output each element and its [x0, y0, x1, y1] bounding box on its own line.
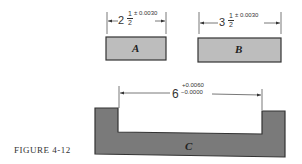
part-b-label: B — [235, 43, 242, 55]
dimension-a-fraction: 1 2 — [127, 11, 133, 26]
figure-caption: FIGURE 4-12 — [14, 145, 71, 155]
dimension-c-upper-tolerance: +0.0060 — [182, 82, 204, 88]
dimension-b-fraction: 1 2 — [228, 13, 234, 28]
dimension-a-whole: 2 — [118, 14, 124, 26]
dimension-b-tolerance: ± 0.0030 — [235, 12, 258, 18]
part-c-label: C — [185, 140, 192, 152]
dimension-c-lower-tolerance: −0.0000 — [181, 89, 203, 95]
figure-drawing — [0, 0, 302, 164]
part-a-label: A — [132, 42, 139, 54]
dimension-b-whole: 3 — [219, 16, 225, 28]
dimension-a-tolerance: ± 0.0030 — [134, 10, 157, 16]
dimension-c-nominal: 6 — [172, 87, 179, 101]
